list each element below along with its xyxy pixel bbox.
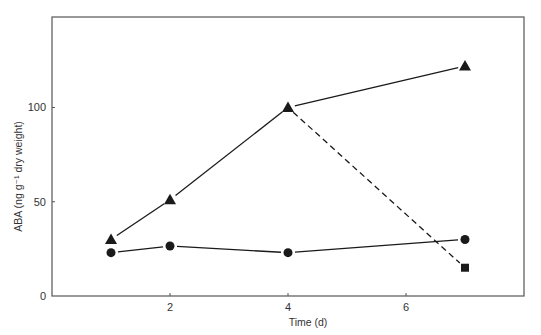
circle-series [107, 235, 470, 257]
data-series [105, 60, 471, 272]
circle-marker [284, 248, 293, 257]
square-marker [461, 264, 469, 272]
y-tick-label: 50 [34, 196, 46, 208]
circle-marker [107, 248, 116, 257]
triangle-marker [164, 194, 176, 205]
x-tick-label: 2 [167, 301, 173, 313]
series-line-segment [293, 112, 460, 263]
y-tick-label: 100 [28, 101, 46, 113]
square-series [293, 112, 469, 272]
triangle-marker [105, 233, 117, 244]
series-line-segment [176, 112, 283, 196]
chart: 050100 246 Time (d) ABA (ng g⁻¹ dry weig… [0, 0, 541, 335]
y-axis: 050100 [28, 101, 55, 302]
triangle-marker [282, 101, 294, 112]
series-line-segment [117, 204, 164, 236]
series-line-segment [118, 247, 163, 252]
x-tick-label: 4 [285, 301, 291, 313]
series-line-segment [177, 246, 281, 252]
x-tick-label: 6 [403, 301, 409, 313]
triangle-series [105, 60, 471, 244]
y-axis-title: ABA (ng g⁻¹ dry weight) [12, 121, 24, 232]
y-tick-label: 0 [40, 290, 46, 302]
series-line-segment [295, 240, 458, 252]
circle-marker [166, 242, 175, 251]
triangle-marker [459, 60, 471, 71]
series-line-segment [295, 68, 458, 106]
x-axis-title: Time (d) [289, 316, 328, 328]
circle-marker [461, 235, 470, 244]
